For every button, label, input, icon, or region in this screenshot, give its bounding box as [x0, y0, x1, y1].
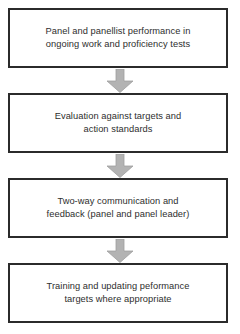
- flowchart-step-2-label: Evaluation against targets and action st…: [10, 110, 226, 136]
- flowchart-step-2: Evaluation against targets and action st…: [8, 93, 228, 153]
- flowchart-step-3-label: Two-way communication and feedback (pane…: [10, 195, 226, 221]
- down-arrow-icon: [106, 154, 134, 178]
- flowchart-diagram: Panel and panellist performance in ongoi…: [0, 0, 240, 334]
- flowchart-step-1-label: Panel and panellist performance in ongoi…: [10, 25, 226, 51]
- flowchart-step-3: Two-way communication and feedback (pane…: [8, 178, 228, 238]
- flowchart-step-4: Training and updating peformance targets…: [8, 263, 228, 323]
- flowchart-step-1: Panel and panellist performance in ongoi…: [8, 8, 228, 68]
- flowchart-step-4-label: Training and updating peformance targets…: [10, 280, 226, 306]
- down-arrow-icon: [106, 239, 134, 263]
- down-arrow-icon: [106, 69, 134, 93]
